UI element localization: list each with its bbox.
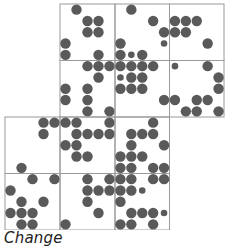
large-dot (82, 61, 92, 71)
large-dot (82, 151, 92, 161)
grid-cell (170, 61, 225, 118)
large-dot (192, 95, 202, 105)
large-dot (159, 27, 169, 37)
large-dot (49, 117, 59, 127)
grid-cell (115, 174, 170, 231)
large-dot (71, 151, 81, 161)
grid-cell (115, 117, 170, 174)
large-dot (126, 140, 136, 150)
large-dot (137, 129, 147, 139)
large-dot (126, 163, 136, 173)
large-dot (16, 208, 26, 218)
large-dot (126, 219, 136, 229)
large-dot (148, 174, 158, 184)
large-dot (93, 72, 103, 82)
large-dot (71, 129, 81, 139)
large-dot (126, 174, 136, 184)
large-dot (5, 208, 15, 218)
large-dot (82, 27, 92, 37)
large-dot (93, 16, 103, 26)
large-dot (60, 117, 70, 127)
large-dot (202, 38, 212, 48)
large-dot (115, 50, 125, 60)
large-dot (126, 4, 136, 14)
grid-cell (60, 117, 115, 174)
grid-cell (5, 117, 60, 174)
small-dot (139, 187, 146, 194)
large-dot (82, 84, 92, 94)
grid-cell (5, 174, 60, 231)
large-dot (60, 95, 70, 105)
large-dot (202, 61, 212, 71)
large-dot (126, 61, 136, 71)
large-dot (126, 151, 136, 161)
large-dot (49, 174, 59, 184)
large-dot (71, 117, 81, 127)
large-dot (93, 208, 103, 218)
large-dot (60, 84, 70, 94)
large-dot (71, 140, 81, 150)
large-dot (82, 174, 92, 184)
large-dot (202, 95, 212, 105)
small-dot (117, 74, 124, 81)
large-dot (115, 185, 125, 195)
large-dot (16, 197, 26, 207)
large-dot (16, 219, 26, 229)
large-dot (93, 50, 103, 60)
large-dot (60, 38, 70, 48)
large-dot (137, 208, 147, 218)
grid-cell (115, 4, 170, 61)
large-dot (93, 185, 103, 195)
large-dot (115, 197, 125, 207)
large-dot (213, 72, 223, 82)
large-dot (148, 16, 158, 26)
large-dot (148, 129, 158, 139)
large-dot (159, 174, 169, 184)
large-dot (38, 129, 48, 139)
large-dot (104, 106, 114, 116)
small-dot (161, 210, 168, 217)
large-dot (82, 106, 92, 116)
large-dot (104, 185, 114, 195)
large-dot (137, 84, 147, 94)
small-dot (161, 40, 168, 47)
large-dot (60, 219, 70, 229)
large-dot (126, 208, 136, 218)
large-dot (71, 4, 81, 14)
large-dot (126, 129, 136, 139)
large-dot (115, 163, 125, 173)
large-dot (93, 61, 103, 71)
large-dot (148, 117, 158, 127)
large-dot (115, 151, 125, 161)
large-dot (82, 197, 92, 207)
grid-cell (60, 174, 115, 231)
large-dot (192, 16, 202, 26)
large-dot (115, 61, 125, 71)
large-dot (126, 84, 136, 94)
large-dot (82, 185, 92, 195)
large-dot (148, 163, 158, 173)
dot-grid-diagram (0, 0, 227, 230)
large-dot (159, 95, 169, 105)
large-dot (38, 197, 48, 207)
large-dot (170, 16, 180, 26)
large-dot (27, 208, 37, 218)
small-dot (172, 63, 179, 70)
large-dot (159, 140, 169, 150)
large-dot (27, 219, 37, 229)
large-dot (104, 129, 114, 139)
large-dot (137, 61, 147, 71)
large-dot (27, 174, 37, 184)
large-dot (115, 174, 125, 184)
large-dot (192, 106, 202, 116)
large-dot (5, 185, 15, 195)
large-dot (181, 27, 191, 37)
large-dot (115, 219, 125, 229)
grid-cell (115, 61, 170, 118)
large-dot (38, 117, 48, 127)
large-dot (213, 84, 223, 94)
large-dot (115, 84, 125, 94)
large-dot (213, 106, 223, 116)
large-dot (104, 174, 114, 184)
large-dot (126, 72, 136, 82)
